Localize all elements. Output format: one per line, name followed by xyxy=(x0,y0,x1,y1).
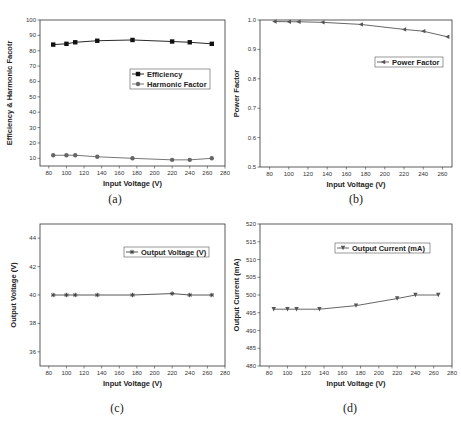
y-tick-label: 0.5 xyxy=(248,164,257,170)
data-point-marker xyxy=(51,42,55,46)
data-point-marker xyxy=(421,29,425,33)
plot-area: 8010012014016018020022024026028010203040… xyxy=(5,17,230,188)
x-tick-label: 180 xyxy=(356,370,367,376)
data-point-marker xyxy=(130,293,134,297)
x-tick-label: 160 xyxy=(341,171,352,177)
x-tick-label: 220 xyxy=(167,170,178,176)
x-tick-label: 220 xyxy=(399,171,410,177)
x-tick-label: 140 xyxy=(319,370,330,376)
y-tick-label: 90 xyxy=(29,32,36,38)
data-point-marker xyxy=(95,293,99,297)
data-point-marker xyxy=(188,293,192,297)
y-tick-label: 70 xyxy=(29,63,36,69)
data-point-marker xyxy=(73,153,77,157)
x-tick-label: 240 xyxy=(185,170,196,176)
data-point-marker xyxy=(136,72,140,76)
y-tick-label: 0.6 xyxy=(248,135,257,141)
y-tick-label: 10 xyxy=(29,155,36,161)
x-tick-label: 100 xyxy=(61,170,72,176)
data-point-marker xyxy=(210,42,214,46)
x-tick-label: 260 xyxy=(437,171,448,177)
y-tick-label: 50 xyxy=(29,94,36,100)
data-point-marker xyxy=(210,293,214,297)
x-tick-label: 100 xyxy=(284,171,295,177)
data-point-marker xyxy=(130,38,134,42)
data-point-marker xyxy=(359,22,363,26)
data-point-marker xyxy=(136,82,140,86)
legend: Power Factor xyxy=(375,57,443,67)
x-tick-label: 180 xyxy=(361,171,372,177)
plot-area: 8010012014016018020022024026028036384042… xyxy=(9,224,230,388)
x-tick-label: 140 xyxy=(97,170,108,176)
x-tick-label: 200 xyxy=(150,170,161,176)
legend: Output Current (mA) xyxy=(335,243,430,253)
x-tick-label: 280 xyxy=(220,170,230,176)
data-point-marker xyxy=(170,291,174,295)
panel-caption: (d) xyxy=(343,401,357,415)
x-tick-label: 240 xyxy=(185,370,196,376)
y-axis-title: Power Factor xyxy=(232,70,241,118)
y-tick-label: 42 xyxy=(29,264,36,270)
y-axis-title: Efficiency & Harmonic Facotr xyxy=(5,41,14,146)
y-tick-label: 485 xyxy=(246,345,257,351)
chart-panel-c: 8010012014016018020022024026028036384042… xyxy=(0,210,230,422)
legend-entry-label: Output Current (mA) xyxy=(352,244,425,253)
y-tick-label: 36 xyxy=(29,349,36,355)
x-tick-label: 260 xyxy=(202,370,213,376)
data-point-marker xyxy=(402,27,406,31)
x-tick-label: 160 xyxy=(337,370,348,376)
x-tick-label: 140 xyxy=(322,171,333,177)
y-tick-label: 505 xyxy=(246,274,257,280)
y-tick-label: 495 xyxy=(246,310,257,316)
data-point-marker xyxy=(95,39,99,43)
data-point-marker xyxy=(170,158,174,162)
x-tick-label: 200 xyxy=(380,171,391,177)
x-axis-title: Input Voltage (V) xyxy=(103,379,163,388)
chart-panel-b: 801001201401601802002202402600.50.60.70.… xyxy=(230,0,461,210)
x-tick-label: 100 xyxy=(282,370,293,376)
y-tick-label: 100 xyxy=(26,17,37,23)
y-tick-label: 520 xyxy=(246,221,257,227)
data-point-marker xyxy=(51,293,55,297)
panel-caption: (a) xyxy=(108,192,121,206)
x-tick-label: 100 xyxy=(61,370,72,376)
chart-panel-a: 8010012014016018020022024026028010203040… xyxy=(0,0,230,210)
data-point-marker xyxy=(320,20,324,24)
y-tick-label: 1.0 xyxy=(248,17,257,23)
data-point-marker xyxy=(64,293,68,297)
x-axis-title: Input Voltage (V) xyxy=(326,180,386,189)
legend: Output Voltage (V) xyxy=(124,247,209,257)
x-tick-label: 200 xyxy=(374,370,385,376)
x-tick-label: 260 xyxy=(429,370,440,376)
x-axis-title: Input Voltage (V) xyxy=(326,379,386,388)
x-tick-label: 240 xyxy=(418,171,429,177)
data-point-marker xyxy=(170,39,174,43)
x-tick-label: 180 xyxy=(132,170,143,176)
x-tick-label: 120 xyxy=(303,171,314,177)
x-tick-label: 280 xyxy=(447,370,458,376)
data-point-marker xyxy=(73,293,77,297)
panel-caption: (b) xyxy=(349,192,363,206)
data-point-marker xyxy=(210,156,214,160)
legend-entry-label: Power Factor xyxy=(392,58,440,67)
y-axis-title: Output Current (mA) xyxy=(232,258,241,331)
x-tick-label: 220 xyxy=(392,370,403,376)
x-tick-label: 160 xyxy=(114,370,125,376)
y-tick-label: 515 xyxy=(246,239,257,245)
plot-area: 8010012014016018020022024026028048048549… xyxy=(232,221,458,388)
y-tick-label: 44 xyxy=(29,235,36,241)
x-tick-label: 260 xyxy=(202,170,213,176)
y-axis-title: Output Voltage (V) xyxy=(9,262,18,328)
legend-entry-label: Output Voltage (V) xyxy=(141,248,207,257)
y-tick-label: 500 xyxy=(246,292,257,298)
data-point-marker xyxy=(445,35,449,39)
legend: EfficiencyHarmonic Factor xyxy=(130,69,210,89)
y-tick-label: 510 xyxy=(246,257,257,263)
data-point-marker xyxy=(51,153,55,157)
y-tick-label: 480 xyxy=(246,363,257,369)
data-point-marker xyxy=(188,40,192,44)
legend-entry-label: Efficiency xyxy=(147,70,183,79)
y-tick-label: 38 xyxy=(29,320,36,326)
legend-entry-label: Harmonic Factor xyxy=(147,80,207,89)
panel-caption: (c) xyxy=(110,401,123,415)
